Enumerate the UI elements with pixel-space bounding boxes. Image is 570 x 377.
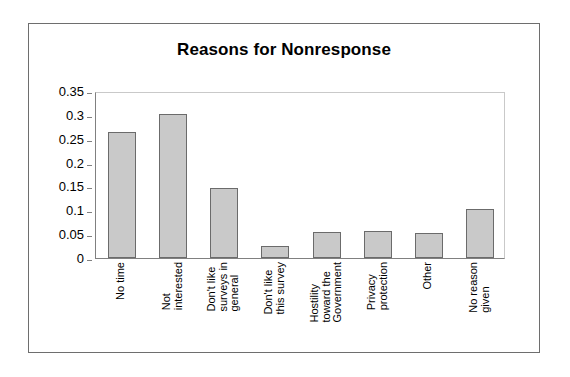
bar[interactable]	[210, 188, 238, 258]
x-axis-tick-label: Don't likethis survey	[263, 262, 286, 315]
bar-slot	[301, 93, 352, 258]
bar[interactable]	[159, 114, 187, 258]
x-axis-label-slot: No time	[95, 262, 146, 348]
y-axis-tick-label: 0.35	[59, 84, 84, 99]
y-axis-tick-mark	[87, 212, 92, 213]
x-axis-tick-label-line: Not	[160, 262, 172, 310]
x-axis-tick-label: Don't likesurveys ingeneral	[206, 262, 241, 312]
x-axis-tick-label-line: Hostility	[308, 262, 320, 323]
x-axis-tick-label: No time	[115, 262, 127, 300]
bar-slot	[147, 93, 198, 258]
chart-figure: Reasons for Nonresponse 0.350.30.250.20.…	[28, 23, 540, 353]
x-axis-tick-label-line: Don't like	[206, 262, 218, 312]
x-axis-label-slot: No reasongiven	[454, 262, 505, 348]
x-axis-tick-label-line: given	[479, 262, 491, 313]
y-axis-tick-label: 0.05	[59, 227, 84, 242]
x-axis-tick-label-line: No time	[115, 262, 127, 300]
bar[interactable]	[313, 232, 341, 258]
x-axis-tick-label-line: protection	[377, 262, 389, 310]
x-axis-tick-label-line: this survey	[274, 262, 286, 315]
x-axis-tick-label-line: interested	[172, 262, 184, 310]
bar-slot	[250, 93, 301, 258]
x-axis-label-slot: Hostilitytoward theGovernment	[300, 262, 351, 348]
x-axis-category-labels: No timeNotinterestedDon't likesurveys in…	[95, 262, 505, 348]
bar[interactable]	[364, 231, 392, 258]
x-axis-tick-label-line: general	[229, 262, 241, 312]
x-axis-label-slot: Don't likesurveys ingeneral	[198, 262, 249, 348]
x-axis-label-slot: Don't likethis survey	[249, 262, 300, 348]
y-axis-tick-mark	[87, 93, 92, 94]
bar-slot	[455, 93, 506, 258]
y-axis-tick-mark	[87, 260, 92, 261]
y-axis-tick-mark	[87, 141, 92, 142]
plot-area: 0.350.30.250.20.150.10.050	[95, 92, 505, 259]
x-axis-label-slot: Privacyprotection	[351, 262, 402, 348]
x-axis-tick-label: No reasongiven	[468, 262, 491, 313]
x-axis-label-slot: Other	[403, 262, 454, 348]
chart-title: Reasons for Nonresponse	[29, 40, 539, 60]
y-axis-tick-label: 0.2	[66, 156, 84, 171]
x-axis-tick-label-line: Government	[331, 262, 343, 323]
x-axis-tick-label-line: toward the	[320, 262, 332, 323]
bar-slot	[199, 93, 250, 258]
x-axis-tick-label: Notinterested	[160, 262, 183, 310]
y-axis-tick-label: 0.1	[66, 203, 84, 218]
bar[interactable]	[415, 233, 443, 258]
bar[interactable]	[108, 132, 136, 258]
y-axis-tick-mark	[87, 117, 92, 118]
y-axis-tick-mark	[87, 236, 92, 237]
y-axis-tick-mark	[87, 165, 92, 166]
y-axis-tick-mark	[87, 188, 92, 189]
x-axis-tick-label: Other	[422, 262, 434, 290]
bar-slot	[96, 93, 147, 258]
y-axis-tick-label: 0.25	[59, 132, 84, 147]
x-axis-tick-label-line: Privacy	[365, 262, 377, 310]
bar[interactable]	[261, 246, 289, 258]
bar-slot	[352, 93, 403, 258]
y-axis-tick-label: 0	[77, 251, 84, 266]
x-axis-tick-label: Hostilitytoward theGovernment	[308, 262, 343, 323]
x-axis-tick-label: Privacyprotection	[365, 262, 388, 310]
y-axis-tick-label: 0.15	[59, 179, 84, 194]
bar[interactable]	[466, 209, 494, 258]
bar-slot	[404, 93, 455, 258]
x-axis-label-slot: Notinterested	[146, 262, 197, 348]
x-axis-tick-label-line: Other	[422, 262, 434, 290]
y-axis-tick-label: 0.3	[66, 108, 84, 123]
bar-series	[96, 93, 504, 258]
